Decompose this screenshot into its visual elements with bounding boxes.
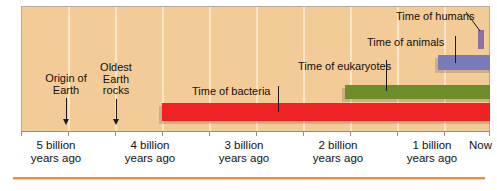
leader-line-animals xyxy=(455,36,456,63)
leader-line-bacteria xyxy=(278,86,279,112)
axis-label-line1: 3 billion xyxy=(204,139,284,152)
era-bar-eukaryotes xyxy=(345,85,490,99)
era-bar-animals xyxy=(438,55,490,70)
axis-tick xyxy=(397,131,398,136)
era-bar-bacteria xyxy=(162,103,490,121)
era-label-humans: Time of humans xyxy=(396,10,474,22)
axis-label-line1: Now xyxy=(430,139,492,152)
axis-label-line2: years ago xyxy=(110,152,190,165)
axis-label-3-billion: 3 billion years ago xyxy=(204,139,284,165)
event-oldest-earth-rocks: Oldest Earth rocks xyxy=(88,62,144,97)
axis-label-2-billion: 2 billion years ago xyxy=(298,139,378,165)
axis-label-line2: years ago xyxy=(392,152,472,165)
axis-label-line2: years ago xyxy=(298,152,378,165)
leader-line-eukaryotes xyxy=(386,60,387,91)
axis-label-line1: 5 billion xyxy=(16,139,96,152)
axis-tick xyxy=(303,131,304,136)
axis-label-line2: years ago xyxy=(16,152,96,165)
axis-tick xyxy=(489,131,490,136)
event-arrow-line-oldest-earth-rocks xyxy=(116,99,117,120)
timeline-figure: Time of humans Time of animals Time of e… xyxy=(0,0,497,191)
axis-label-4-billion: 4 billion years ago xyxy=(110,139,190,165)
axis-tick xyxy=(21,131,22,136)
bottom-rule-shadow xyxy=(13,179,485,180)
leader-line-humans xyxy=(466,12,488,34)
axis-tick xyxy=(256,131,257,136)
axis-tick xyxy=(68,131,69,136)
axis-label-now: Now xyxy=(430,139,492,152)
era-label-bacteria: Time of bacteria xyxy=(192,85,270,97)
era-label-eukaryotes: Time of eukaryotes xyxy=(298,60,391,72)
event-arrow-head-oldest-earth-rocks xyxy=(113,119,119,125)
event-arrow-head-origin-of-earth xyxy=(63,119,69,125)
era-label-animals: Time of animals xyxy=(367,36,444,48)
axis-label-line1: 2 billion xyxy=(298,139,378,152)
event-oldest-earth-rocks-line3: rocks xyxy=(88,85,144,97)
event-oldest-earth-rocks-line1: Oldest xyxy=(88,62,144,74)
axis-tick xyxy=(115,131,116,136)
axis-tick xyxy=(209,131,210,136)
axis-tick xyxy=(350,131,351,136)
axis-label-5-billion: 5 billion years ago xyxy=(16,139,96,165)
axis-tick xyxy=(162,131,163,136)
event-arrow-line-origin-of-earth xyxy=(66,98,67,120)
axis-label-line1: 4 billion xyxy=(110,139,190,152)
gridline xyxy=(68,7,70,131)
axis-label-line2: years ago xyxy=(204,152,284,165)
axis-tick xyxy=(444,131,445,136)
